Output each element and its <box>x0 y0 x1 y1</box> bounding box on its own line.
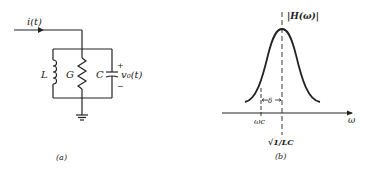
inductor-label: L <box>40 69 48 80</box>
response-plot <box>222 12 353 135</box>
current-arrow-icon <box>38 27 44 33</box>
figure-canvas: i(t) L G C v₀(t) + − (a) |H(ω)| ω ωc √1/… <box>0 0 370 175</box>
capacitor-label: C <box>96 69 104 80</box>
conductance-label: G <box>66 69 74 80</box>
caption-b: (b) <box>275 152 286 161</box>
inductor-icon <box>53 49 57 98</box>
circuit-labels: i(t) L G C v₀(t) + − (a) <box>27 16 143 162</box>
ground-icon <box>76 98 88 120</box>
minus-sign: − <box>117 82 124 91</box>
voltage-label: v₀(t) <box>121 69 143 80</box>
y-axis-label: |H(ω)| <box>287 11 319 22</box>
delta-label: δ <box>268 97 272 105</box>
cutoff-label: ωc <box>254 117 266 126</box>
plus-sign: + <box>117 61 124 70</box>
resistor-icon <box>78 49 86 98</box>
caption-a: (a) <box>56 153 67 162</box>
center-frequency-label: √1/LC <box>268 137 294 147</box>
current-label: i(t) <box>27 16 42 27</box>
x-axis-label: ω <box>348 115 356 125</box>
response-curve <box>245 29 320 102</box>
